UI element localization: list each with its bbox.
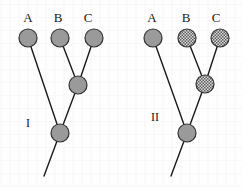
panels-group: ABCIABCII [19, 10, 229, 176]
internal-node-II-root [178, 124, 196, 142]
tip-node-II-A [144, 29, 162, 47]
panel-label-II: II [151, 110, 159, 124]
branches-group-I [28, 38, 94, 176]
taxon-label-I-B: B [54, 10, 63, 25]
tip-node-I-B [51, 29, 69, 47]
branch-I-A [28, 38, 60, 133]
taxon-label-I-A: A [23, 10, 33, 25]
taxon-label-II-C: C [212, 10, 221, 25]
tree-panel-II: ABCII [144, 10, 229, 176]
tip-node-II-B [178, 29, 196, 47]
tree-canvas: ABCIABCII [0, 0, 243, 187]
tip-node-I-C [85, 29, 103, 47]
internal-node-I-BC [69, 76, 87, 94]
tip-node-I-A [19, 29, 37, 47]
internal-node-I-root [51, 124, 69, 142]
branches-group-II [153, 38, 220, 176]
internal-node-II-BC [196, 75, 214, 93]
taxon-label-II-B: B [182, 10, 191, 25]
taxon-label-II-A: A [147, 10, 157, 25]
tree-panel-I: ABCI [19, 10, 103, 176]
taxon-label-I-C: C [84, 10, 93, 25]
phylogenetic-tree-figure: ABCIABCII [0, 0, 243, 187]
tip-node-II-C [211, 29, 229, 47]
panel-label-I: I [26, 116, 30, 130]
